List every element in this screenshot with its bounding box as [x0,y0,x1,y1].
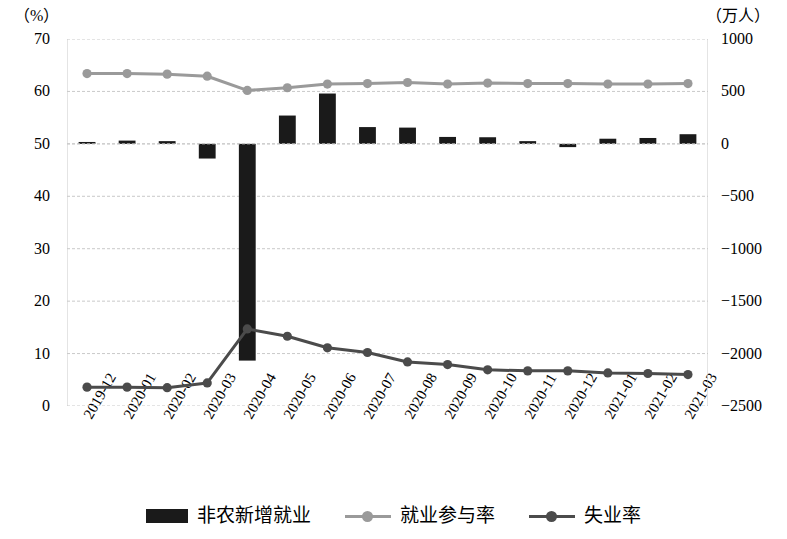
data-point-marker [283,83,292,92]
right-axis-tick: −500 [721,188,754,204]
data-point-marker [563,366,572,375]
left-axis-tick: 50 [8,136,50,152]
data-point-marker [403,78,412,87]
bar [439,137,456,144]
data-point-marker [363,79,372,88]
data-point-marker [82,383,91,392]
data-point-marker [122,69,131,78]
right-axis-tick: −1000 [721,241,762,257]
data-point-marker [643,369,652,378]
data-point-marker [603,79,612,88]
data-point-marker [82,69,91,78]
data-point-marker [203,378,212,387]
data-point-marker [603,368,612,377]
data-point-marker [443,360,452,369]
legend-item-label: 就业参与率 [400,506,495,525]
data-point-marker [643,79,652,88]
data-point-marker [443,79,452,88]
bar [359,127,376,144]
data-point-marker [283,332,292,341]
left-axis-unit-label: （%） [14,2,59,26]
right-axis-tick: −1500 [721,293,762,309]
right-axis-tick: 500 [721,83,745,99]
data-point-marker [122,383,131,392]
data-point-marker [363,348,372,357]
right-axis-tick: 0 [721,136,729,152]
bar [319,94,336,144]
left-axis-tick: 30 [8,241,50,257]
line-series [87,74,688,91]
data-point-marker [203,72,212,81]
right-axis-tick: 1000 [721,31,753,47]
bar [680,134,697,144]
legend-line-marker-icon [529,509,575,523]
bar [599,139,616,144]
left-axis-tick: 60 [8,83,50,99]
left-axis-tick: 70 [8,31,50,47]
left-axis-tick: 0 [8,398,50,414]
data-point-marker [323,79,332,88]
legend-bar-swatch-icon [146,509,188,523]
data-point-marker [243,324,252,333]
data-point-marker [523,366,532,375]
bar [199,144,216,159]
left-axis-tick: 40 [8,188,50,204]
legend-item[interactable]: 就业参与率 [345,506,495,525]
data-point-marker [683,79,692,88]
chart-legend: 非农新增就业就业参与率失业率 [0,506,787,525]
bar [639,138,656,144]
legend-item-label: 非农新增就业 [197,506,311,525]
right-axis-tick: −2000 [721,346,762,362]
data-point-marker [163,70,172,79]
employment-chart: （%） （万人） 706050403020100 10005000−500−10… [0,0,787,539]
data-point-marker [563,79,572,88]
legend-item-label: 失业率 [584,506,641,525]
data-point-marker [683,370,692,379]
legend-line-marker-icon [345,509,391,523]
plot-area [67,39,708,406]
data-point-marker [323,343,332,352]
chart-canvas [67,39,708,406]
line-series [87,329,688,388]
data-point-marker [523,79,532,88]
data-point-marker [483,78,492,87]
data-point-marker [403,357,412,366]
right-axis-unit-label: （万人） [706,2,770,26]
bar [479,137,496,144]
bar [279,116,296,144]
bar [399,128,416,144]
data-point-marker [483,365,492,374]
data-point-marker [243,86,252,95]
left-axis-tick: 20 [8,293,50,309]
right-axis-tick: −2500 [721,398,762,414]
data-point-marker [163,383,172,392]
left-axis-tick: 10 [8,346,50,362]
legend-item[interactable]: 非农新增就业 [146,506,311,525]
legend-item[interactable]: 失业率 [529,506,641,525]
